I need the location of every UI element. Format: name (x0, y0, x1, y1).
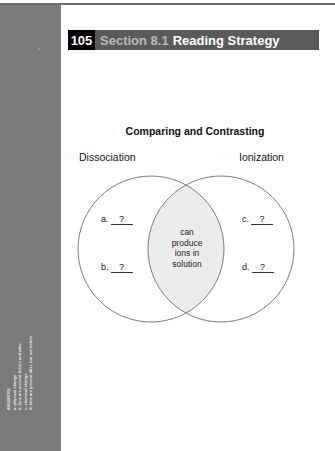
blank-a: a.? (101, 214, 133, 225)
overlap-line: ions in (164, 248, 210, 259)
blank-d: d.? (242, 262, 274, 273)
blank-b-letter: b. (101, 262, 109, 272)
overlap-line: can (164, 227, 210, 238)
blank-c-value[interactable]: ? (251, 215, 273, 225)
blank-b: b.? (101, 262, 133, 273)
blank-d-value[interactable]: ? (252, 263, 274, 273)
overlap-line: solution (164, 259, 210, 270)
blank-b-value[interactable]: ? (111, 263, 133, 273)
overlap-text: can produce ions in solution (164, 227, 210, 269)
blank-a-letter: a. (101, 214, 109, 224)
blank-c: c.? (242, 214, 273, 225)
overlap-line: produce (164, 238, 210, 249)
blank-d-letter: d. (242, 262, 250, 272)
venn-diagram (0, 0, 335, 451)
blank-c-letter: c. (242, 214, 249, 224)
blank-a-value[interactable]: ? (111, 215, 133, 225)
